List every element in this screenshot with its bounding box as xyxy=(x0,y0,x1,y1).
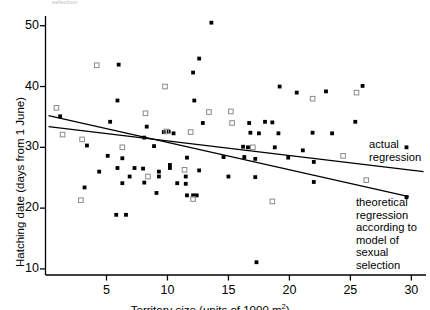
data-point-filled xyxy=(142,136,146,140)
scatter-plot-figure: selection 102030405051015202530 Hatching… xyxy=(0,0,430,310)
data-point-filled xyxy=(120,181,124,185)
data-point-open-square xyxy=(120,145,125,150)
data-point-filled xyxy=(97,170,101,174)
x-tick-label-25: 25 xyxy=(338,283,362,297)
data-point-filled xyxy=(106,154,110,158)
x-tick-label-30: 30 xyxy=(399,283,423,297)
data-point-filled xyxy=(273,145,277,149)
data-point-filled xyxy=(241,145,245,149)
data-point-open-square xyxy=(229,109,234,114)
y-axis-label: Hatching date (days from 1 June) xyxy=(14,97,26,267)
theoretical-regression-line xyxy=(49,116,409,197)
data-point-filled xyxy=(85,144,89,148)
data-point-filled xyxy=(295,91,299,95)
data-point-filled xyxy=(128,175,132,179)
data-point-filled xyxy=(330,131,334,135)
data-point-open-square xyxy=(60,132,65,137)
data-point-open-square xyxy=(146,174,151,179)
actual-regression-line xyxy=(49,127,424,172)
data-point-filled xyxy=(353,120,357,124)
data-point-filled xyxy=(311,131,315,135)
data-point-open-square xyxy=(191,197,196,202)
data-point-filled xyxy=(263,120,267,124)
data-point-open-square xyxy=(364,178,369,183)
data-point-filled xyxy=(124,213,128,217)
data-point-filled xyxy=(270,121,274,125)
data-point-filled xyxy=(197,57,201,61)
data-point-open-square xyxy=(354,90,359,95)
data-point-filled xyxy=(58,114,62,118)
x-tick-label-10: 10 xyxy=(155,283,179,297)
data-point-filled xyxy=(277,131,281,135)
theoretical-regression-label: theoretical regression according to mode… xyxy=(356,196,430,272)
data-point-filled xyxy=(248,131,252,135)
data-point-filled xyxy=(286,156,290,160)
y-tick-label-50: 50 xyxy=(20,18,39,32)
data-point-filled xyxy=(108,120,112,124)
data-point-filled xyxy=(312,160,316,164)
data-point-filled xyxy=(257,131,261,135)
data-point-filled xyxy=(114,213,118,217)
x-tick-label-20: 20 xyxy=(277,283,301,297)
data-point-filled xyxy=(184,182,188,186)
data-point-filled xyxy=(191,71,195,75)
data-point-filled xyxy=(201,121,205,125)
x-axis-label: Territory size (units of 1000 m2) xyxy=(131,302,290,310)
data-point-open-square xyxy=(251,145,256,150)
data-point-open-square xyxy=(230,121,235,126)
data-point-open-square xyxy=(54,106,59,111)
data-point-filled xyxy=(155,191,159,195)
data-point-filled xyxy=(246,145,250,149)
data-point-filled xyxy=(141,167,145,171)
data-point-filled xyxy=(120,156,124,160)
data-point-filled xyxy=(312,180,316,184)
data-point-open-square xyxy=(341,154,346,159)
x-tick-label-5: 5 xyxy=(94,283,118,297)
data-point-filled xyxy=(227,175,231,179)
data-point-open-square xyxy=(143,111,148,116)
x-tick-label-15: 15 xyxy=(216,283,240,297)
data-point-filled xyxy=(133,166,137,170)
data-point-filled xyxy=(116,99,120,103)
data-point-open-square xyxy=(270,199,275,204)
data-point-open-square xyxy=(80,137,85,142)
data-point-filled xyxy=(247,121,251,125)
data-point-filled xyxy=(253,157,257,161)
data-point-filled xyxy=(145,125,149,129)
data-point-filled xyxy=(192,99,196,103)
data-point-filled xyxy=(185,193,189,197)
data-point-open-square xyxy=(207,110,212,115)
data-point-filled xyxy=(83,186,87,190)
data-point-filled xyxy=(157,175,161,179)
data-point-filled xyxy=(255,260,259,264)
data-point-filled xyxy=(185,156,189,160)
data-point-filled xyxy=(361,84,365,88)
data-point-filled xyxy=(175,181,179,185)
data-point-open-square xyxy=(94,63,99,68)
data-point-open-square xyxy=(188,130,193,135)
data-point-filled xyxy=(184,175,188,179)
actual-regression-label: actual regression xyxy=(369,138,421,163)
data-point-open-square xyxy=(310,96,315,101)
data-point-filled xyxy=(324,89,328,93)
data-point-filled xyxy=(116,166,120,170)
data-point-filled xyxy=(152,144,156,148)
data-point-filled xyxy=(301,148,305,152)
data-point-open-square xyxy=(79,198,84,203)
data-point-open-square xyxy=(182,168,187,173)
data-point-filled xyxy=(168,163,172,167)
data-point-filled xyxy=(278,85,282,89)
data-point-filled xyxy=(117,63,121,67)
data-point-filled xyxy=(157,170,161,174)
data-point-open-square xyxy=(163,84,168,89)
data-point-filled xyxy=(172,131,176,135)
data-point-filled xyxy=(253,175,257,179)
data-point-filled xyxy=(197,169,201,173)
data-point-filled xyxy=(222,155,226,159)
data-point-filled xyxy=(142,181,146,185)
data-point-filled xyxy=(242,155,246,159)
data-point-filled xyxy=(209,21,213,25)
y-tick-label-40: 40 xyxy=(20,79,39,93)
